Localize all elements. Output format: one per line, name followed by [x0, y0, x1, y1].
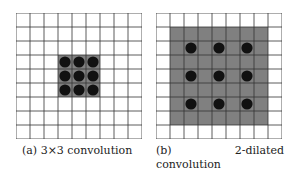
grid-3x3-convolution [16, 13, 142, 139]
kernel-point [213, 98, 224, 109]
kernel-point [241, 42, 252, 53]
kernel-point [59, 84, 70, 95]
kernel-point [185, 98, 196, 109]
kernel-point [87, 84, 98, 95]
kernel-point [213, 70, 224, 81]
kernel-point [185, 70, 196, 81]
kernel-point [241, 70, 252, 81]
kernel-point [87, 56, 98, 67]
caption-a: (a) 3×3 convolution [22, 144, 142, 158]
kernel-point [73, 84, 84, 95]
kernel-point [59, 70, 70, 81]
grid-dilated-convolution [156, 13, 282, 139]
kernel-point [213, 42, 224, 53]
kernel-point [59, 56, 70, 67]
kernel-point [73, 56, 84, 67]
kernel-point [87, 70, 98, 81]
caption-b: (b) 2-dilated convolution [156, 144, 284, 172]
kernel-point [73, 70, 84, 81]
kernel-point [185, 42, 196, 53]
kernel-point [241, 98, 252, 109]
